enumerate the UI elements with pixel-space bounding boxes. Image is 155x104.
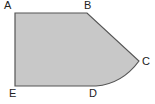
vertex-label-a: A bbox=[4, 0, 12, 11]
geometry-diagram: A B C D E bbox=[0, 0, 155, 104]
shape-ABCDE bbox=[15, 13, 139, 86]
vertex-label-e: E bbox=[9, 87, 16, 99]
vertex-label-d: D bbox=[89, 87, 97, 99]
vertex-label-c: C bbox=[142, 55, 150, 67]
vertex-label-b: B bbox=[84, 0, 91, 11]
